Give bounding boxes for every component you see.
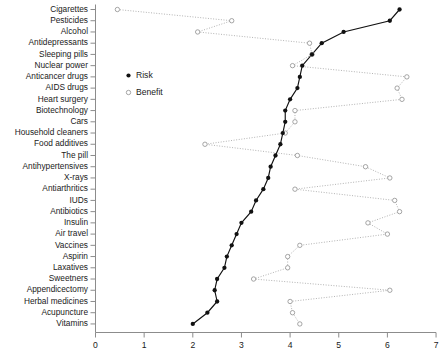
x-axis-tick-label: 0 bbox=[93, 340, 98, 350]
category-label: Biotechnology bbox=[36, 105, 89, 115]
category-label: Acupuncture bbox=[41, 307, 88, 317]
benefit-point bbox=[366, 221, 370, 225]
category-label: Antibiotics bbox=[50, 206, 88, 216]
risk-point bbox=[341, 30, 345, 34]
legend-benefit-label: Benefit bbox=[136, 87, 163, 97]
benefit-point bbox=[203, 142, 207, 146]
category-label: Vitamins bbox=[56, 318, 88, 328]
benefit-point bbox=[405, 75, 409, 79]
risk-point bbox=[234, 232, 238, 236]
benefit-point bbox=[400, 97, 404, 101]
benefit-point bbox=[293, 108, 297, 112]
benefit-point bbox=[307, 41, 311, 45]
category-label: Herbal medicines bbox=[24, 296, 88, 306]
category-label: Heart surgery bbox=[38, 94, 89, 104]
risk-point bbox=[388, 19, 392, 23]
category-label: Pesticides bbox=[50, 15, 88, 25]
category-label: Appendicectomy bbox=[27, 284, 89, 294]
benefit-point bbox=[290, 311, 294, 315]
benefit-point bbox=[295, 153, 299, 157]
benefit-data-points bbox=[115, 7, 409, 326]
risk-point bbox=[261, 187, 265, 191]
benefit-point bbox=[397, 209, 401, 213]
benefit-point bbox=[293, 187, 297, 191]
risk-point bbox=[281, 131, 285, 135]
benefit-point bbox=[285, 254, 289, 258]
category-label: Food additives bbox=[34, 138, 88, 148]
risk-point bbox=[283, 108, 287, 112]
category-label: Air travel bbox=[55, 228, 88, 238]
x-axis-tick-labels: 01234567 bbox=[93, 340, 439, 350]
risk-benefit-chart: CigarettesPesticidesAlcoholAntidepressan… bbox=[0, 0, 442, 354]
x-axis-tick-label: 2 bbox=[190, 340, 195, 350]
category-label: Sweetners bbox=[49, 273, 88, 283]
chart-canvas: CigarettesPesticidesAlcoholAntidepressan… bbox=[0, 0, 442, 354]
x-axis-tick-label: 4 bbox=[288, 340, 293, 350]
category-label: AIDS drugs bbox=[46, 82, 88, 92]
category-label: Cars bbox=[70, 116, 88, 126]
risk-point bbox=[288, 97, 292, 101]
risk-point bbox=[283, 120, 287, 124]
risk-point bbox=[215, 299, 219, 303]
x-axis-tick-label: 3 bbox=[239, 340, 244, 350]
benefit-point bbox=[363, 165, 367, 169]
category-label: Household cleaners bbox=[15, 127, 88, 137]
category-label: Laxatives bbox=[53, 262, 88, 272]
benefit-point bbox=[395, 86, 399, 90]
legend-benefit-marker-icon bbox=[126, 90, 130, 94]
benefit-point bbox=[290, 63, 294, 67]
benefit-point bbox=[230, 19, 234, 23]
x-axis-tick-marks bbox=[96, 333, 437, 338]
risk-data-points bbox=[191, 7, 402, 326]
benefit-point bbox=[388, 176, 392, 180]
risk-point bbox=[191, 322, 195, 326]
category-axis-labels: CigarettesPesticidesAlcoholAntidepressan… bbox=[15, 4, 89, 328]
risk-point bbox=[213, 288, 217, 292]
category-label: Alcohol bbox=[61, 26, 88, 36]
benefit-point bbox=[293, 120, 297, 124]
legend-risk-label: Risk bbox=[136, 70, 153, 80]
category-label: Anticancer drugs bbox=[26, 71, 88, 81]
risk-point bbox=[273, 153, 277, 157]
benefit-point bbox=[392, 198, 396, 202]
benefit-point bbox=[388, 288, 392, 292]
category-label: Aspirin bbox=[63, 251, 89, 261]
category-tick-marks bbox=[91, 5, 96, 333]
risk-point bbox=[300, 64, 304, 68]
risk-point bbox=[266, 176, 270, 180]
category-label: Cigarettes bbox=[50, 4, 88, 14]
benefit-point bbox=[251, 277, 255, 281]
benefit-point bbox=[298, 322, 302, 326]
risk-point bbox=[254, 198, 258, 202]
category-label: The pill bbox=[61, 150, 88, 160]
category-label: X-rays bbox=[64, 172, 88, 182]
risk-point bbox=[215, 277, 219, 281]
benefit-point bbox=[288, 299, 292, 303]
risk-point bbox=[230, 243, 234, 247]
risk-point bbox=[310, 52, 314, 56]
risk-point bbox=[320, 41, 324, 45]
benefit-point bbox=[285, 266, 289, 270]
risk-point bbox=[222, 266, 226, 270]
risk-point bbox=[205, 311, 209, 315]
x-axis-tick-label: 6 bbox=[385, 340, 390, 350]
category-label: IUDs bbox=[70, 195, 88, 205]
benefit-point bbox=[115, 7, 119, 11]
risk-point bbox=[298, 75, 302, 79]
risk-point bbox=[397, 7, 401, 11]
chart-legend: Risk Benefit bbox=[126, 70, 163, 97]
category-label: Antiarthritics bbox=[42, 183, 88, 193]
risk-point bbox=[268, 165, 272, 169]
category-label: Antidepressants bbox=[29, 37, 89, 47]
benefit-point bbox=[195, 30, 199, 34]
x-axis-tick-label: 5 bbox=[336, 340, 341, 350]
risk-series-line bbox=[193, 10, 400, 324]
legend-risk-marker-icon bbox=[126, 73, 130, 77]
benefit-point bbox=[385, 232, 389, 236]
category-label: Vaccines bbox=[55, 240, 88, 250]
risk-point bbox=[239, 221, 243, 225]
category-label: Insulin bbox=[64, 217, 88, 227]
category-label: Antihypertensives bbox=[23, 161, 89, 171]
category-label: Nuclear power bbox=[35, 60, 89, 70]
category-label: Sleeping pills bbox=[39, 49, 88, 59]
